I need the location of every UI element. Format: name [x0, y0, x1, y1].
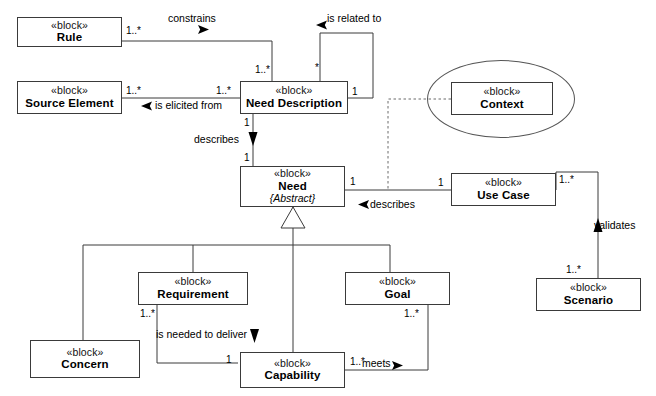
multiplicity-rule-right: 1..*: [126, 25, 141, 36]
relation-label-is-needed-to-deliver: is needed to deliver: [156, 328, 247, 340]
block-goal[interactable]: «block» Goal: [345, 272, 450, 305]
multiplicity-requirement-bottom: 1..*: [140, 308, 155, 319]
multiplicity-need-description-bottom: 1: [244, 117, 250, 128]
multiplicity-scenario-top: 1..*: [566, 264, 581, 275]
multiplicity-use-case-right: 1..*: [559, 174, 574, 185]
constrains-arrowhead: [198, 25, 209, 34]
describes-need-arrowhead: [249, 132, 258, 146]
multiplicity-capability-left: 1: [226, 354, 232, 365]
multiplicity-need-right: 1: [350, 176, 356, 187]
block-source-element[interactable]: «block» Source Element: [17, 81, 122, 114]
multiplicity-use-case-left: 1: [438, 177, 444, 188]
block-need-modifier: {Abstract}: [270, 193, 316, 205]
block-context-name: Context: [480, 98, 524, 111]
block-need-description[interactable]: «block» Need Description: [240, 81, 348, 114]
block-scenario-stereotype: «block»: [570, 282, 607, 294]
is-needed-to-deliver-arrowhead: [250, 329, 259, 343]
multiplicity-capability-right: 1..*: [350, 356, 365, 367]
multiplicity-need-description-left: 1..*: [216, 85, 231, 96]
block-source-element-stereotype: «block»: [51, 85, 88, 97]
block-rule-name: Rule: [57, 31, 82, 44]
multiplicity-need-description-right: 1: [352, 86, 358, 97]
relation-label-is-elicited-from: is elicited from: [155, 99, 222, 111]
block-use-case[interactable]: «block» Use Case: [451, 173, 556, 206]
block-source-element-name: Source Element: [25, 97, 113, 110]
block-use-case-stereotype: «block»: [485, 177, 522, 189]
block-goal-name: Goal: [385, 288, 411, 301]
block-concern[interactable]: «block» Concern: [30, 340, 140, 378]
block-concern-stereotype: «block»: [67, 347, 104, 359]
block-rule[interactable]: «block» Rule: [17, 17, 122, 47]
block-definition-diagram: «block» Rule «block» Source Element «blo…: [0, 0, 656, 396]
connector-constrains: [122, 25, 272, 81]
block-goal-stereotype: «block»: [379, 276, 416, 288]
relation-label-meets: meets: [362, 357, 391, 369]
block-concern-name: Concern: [61, 358, 108, 371]
block-requirement-name: Requirement: [157, 288, 228, 301]
block-context-stereotype: «block»: [484, 86, 521, 98]
block-requirement-stereotype: «block»: [175, 276, 212, 288]
multiplicity-need-description-top-left: 1..*: [255, 64, 270, 75]
block-need-name: Need: [278, 180, 307, 193]
block-need[interactable]: «block» Need {Abstract}: [240, 166, 345, 207]
block-capability-name: Capability: [265, 369, 321, 382]
is-elicited-from-arrowhead: [141, 102, 152, 111]
generalization-triangle: [281, 207, 305, 228]
block-scenario-name: Scenario: [564, 294, 613, 307]
block-context[interactable]: «block» Context: [451, 82, 553, 115]
relation-label-describes-need: describes: [194, 133, 239, 145]
relation-label-constrains: constrains: [168, 12, 216, 24]
block-capability-stereotype: «block»: [274, 358, 311, 370]
block-scenario[interactable]: «block» Scenario: [536, 278, 641, 311]
block-capability[interactable]: «block» Capability: [240, 352, 345, 388]
relation-label-describes-usecase: describes: [370, 198, 415, 210]
multiplicity-source-element-right: 1..*: [126, 85, 141, 96]
meets-arrowhead: [392, 361, 403, 370]
describes-usecase-arrowhead: [358, 200, 369, 209]
block-requirement[interactable]: «block» Requirement: [138, 272, 248, 305]
block-need-description-stereotype: «block»: [276, 85, 313, 97]
relation-label-is-related-to: is related to: [327, 12, 381, 24]
relation-label-validates: validates: [594, 219, 635, 231]
block-use-case-name: Use Case: [477, 189, 530, 202]
multiplicity-goal-bottom: 1..*: [404, 308, 419, 319]
block-need-stereotype: «block»: [274, 168, 311, 180]
block-rule-stereotype: «block»: [51, 20, 88, 32]
block-need-description-name: Need Description: [246, 97, 342, 110]
multiplicity-need-description-top-right: *: [315, 62, 319, 73]
is-related-to-arrowhead: [316, 21, 327, 30]
multiplicity-need-top: 1: [244, 152, 250, 163]
